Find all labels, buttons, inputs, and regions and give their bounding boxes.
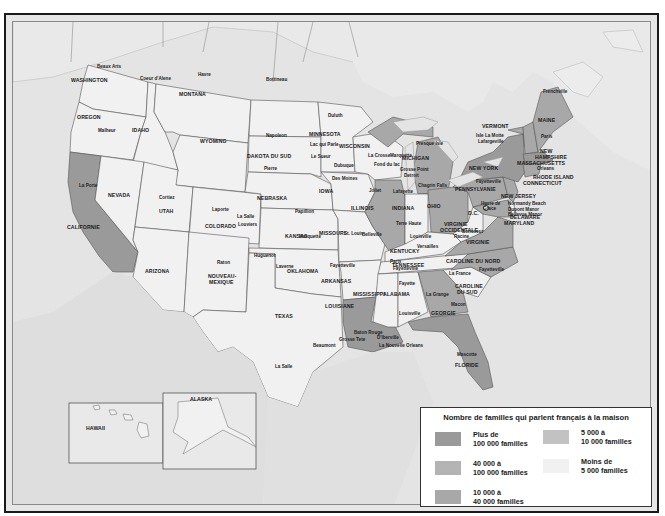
state-label-montana: MONTANA [179, 92, 206, 97]
city-marquette-ks: Marquette [299, 235, 321, 240]
legend-item-over-100000: Plus de100 000 familles [435, 430, 528, 448]
city-laporte: Laporte [212, 208, 229, 213]
city-raton: Raton [217, 261, 230, 266]
legend-item-40000-100000: 40 000 à100 000 familles [435, 459, 528, 477]
city-pierre: Pierre [264, 167, 277, 172]
state-label-wyoming: WYOMING [200, 139, 227, 144]
state-label-illinois: ILLINOIS [351, 206, 374, 211]
city-la-grange: La Grange [426, 293, 449, 298]
city-fayetteville-nc: Fayetteville [479, 268, 504, 273]
state-label-nebraska: NEBRASKA [257, 196, 287, 201]
state-label-pennsylvanie: PENNSYLVANIE [455, 187, 496, 192]
legend-swatch [435, 432, 461, 446]
city-la-france: La France [449, 272, 471, 277]
city-paris-me: Paris [541, 135, 552, 140]
city-la-crosse: La Crosse [368, 154, 390, 159]
state-label-arizona: ARIZONA [145, 269, 169, 274]
city-papillion: Papillion [295, 210, 314, 215]
state-label-dakota-du-sud: DAKOTA DU SUD [247, 154, 291, 159]
city-macon: Macon [451, 303, 466, 308]
state-label-oregon: OREGON [77, 115, 101, 120]
legend-title: Nombre de familles qui parlent français … [421, 413, 651, 422]
city-dubuque: Dubuque [334, 164, 354, 169]
city-isle-la-motte: Isle La Motte [476, 134, 504, 139]
city-le-sueur: Le Sueur [311, 155, 331, 160]
city-la-porte: La Porte [79, 184, 97, 189]
state-label-caroline-sud-2: DU SUD [457, 290, 478, 295]
city-presque-isle: Presque Isle [416, 142, 443, 147]
city-huguenot: Huguenot [254, 254, 275, 259]
city-duluth: Duluth [328, 114, 343, 119]
city-racine: Racine [454, 235, 469, 240]
city-joliet: Joliet [369, 189, 381, 194]
city-lac-qui-parle: Lac qui Parle [310, 143, 339, 148]
city-cortiez: Cortiez [159, 196, 175, 201]
city-bellevue-manor: Bellevue Manor [508, 213, 542, 218]
city-lafayette: Lafayette [393, 190, 413, 195]
city-beaux-arts: Beaux Arts [97, 65, 121, 70]
city-beaumont: Beaumont [313, 344, 335, 349]
state-label-caroline-nord: CAROLINE DU NORD [446, 259, 500, 264]
state-label-mississippi: MISSISSIPPI [353, 292, 385, 297]
city-napoleon: Napoleon [266, 134, 287, 139]
city-grosse-tete: Grosse Tete [339, 338, 365, 343]
city-fond-du-lac: Fond du lac [374, 163, 400, 168]
state-label-hawaii: HAWAII [86, 426, 105, 431]
state-label-nouveau-mexique-2: MEXIQUE [209, 280, 234, 285]
state-label-wisconsin: WISCONSIN [339, 144, 370, 149]
state-label-dc: D.C. [468, 211, 479, 216]
state-label-maryland: MARYLAND [504, 221, 534, 226]
state-label-new-jersey: NEW JERSEY [501, 194, 536, 199]
city-versailles: Versailles [417, 245, 438, 250]
city-la-salle-co: La Salle [237, 215, 254, 220]
city-coeur-dalene: Coeur d'Alene [140, 77, 171, 82]
map-legend: Nombre de familles qui parlent français … [420, 407, 652, 507]
city-havre-de-grace-2: Grace [483, 207, 496, 212]
city-la-salle-tx: La Salle [275, 365, 292, 370]
legend-swatch [543, 430, 569, 444]
state-label-louisiane: LOUISIANE [325, 304, 354, 309]
city-des-moines: Des Moines [332, 177, 358, 182]
city-fayetteville-ny: Fayetteville [476, 180, 501, 185]
state-label-idaho: IDAHO [132, 128, 149, 133]
city-grosse-pointe: Grosse Point [400, 168, 429, 173]
state-label-georgie: GEORGIE [431, 311, 456, 316]
state-label-missouri: MISSOURI [319, 231, 345, 236]
city-frenchville: Frenchville [543, 90, 567, 95]
state-label-virginie: VIRGINIE [466, 240, 490, 245]
city-havre: Havre [198, 73, 211, 78]
state-label-minnesota: MINNESOTA [309, 132, 341, 137]
state-label-californie: CALIFORNIE [67, 225, 100, 230]
state-label-kentucky: KENTUCKY [390, 249, 420, 254]
legend-swatch [435, 490, 461, 504]
city-normandy-beach: Normandy Beach [508, 202, 546, 207]
state-label-new-york: NEW YORK [469, 166, 498, 171]
state-label-maine: MAINE [538, 118, 555, 123]
state-label-nevada: NEVADA [108, 193, 130, 198]
city-orleans: Orleans [537, 167, 554, 172]
city-marquette-wi: Marquette [390, 154, 412, 159]
city-belleville: Belleville [362, 233, 382, 238]
city-louisville: Louisville [410, 235, 431, 240]
city-st-louis: St. Louis [344, 232, 363, 237]
city-lafargeville: Lafargeville [478, 140, 504, 145]
state-label-floride: FLORIDE [455, 363, 478, 368]
legend-item-5000-10000: 5 000 à10 000 familles [543, 428, 632, 446]
city-detroit: Detroit [404, 174, 419, 179]
city-fayetteville-tn: Fayetteville [393, 267, 418, 272]
legend-swatch [543, 459, 569, 473]
state-label-connecticut: CONNECTICUT [523, 181, 562, 186]
city-chagrin-falls: Chagrin Falls [418, 184, 447, 189]
legend-item-10000-40000: 10 000 à40 000 familles [435, 488, 524, 506]
city-malheur: Malheur [98, 129, 116, 134]
city-fayetteville-ar: Fayetteville [330, 264, 355, 269]
state-label-washington: WASHINGTON [71, 78, 108, 83]
state-label-ohio: OHIO [427, 204, 441, 209]
city-nouvelle-orleans: La Nouvelle Orleans [379, 344, 423, 349]
legend-swatch [435, 461, 461, 475]
state-label-arkansas: ARKANSAS [321, 279, 351, 284]
state-label-alaska: ALASKA [190, 397, 212, 402]
city-iberville: D'Iberville [377, 336, 399, 341]
state-label-iowa: IOWA [319, 189, 333, 194]
city-loudsville: Louisville [399, 312, 420, 317]
